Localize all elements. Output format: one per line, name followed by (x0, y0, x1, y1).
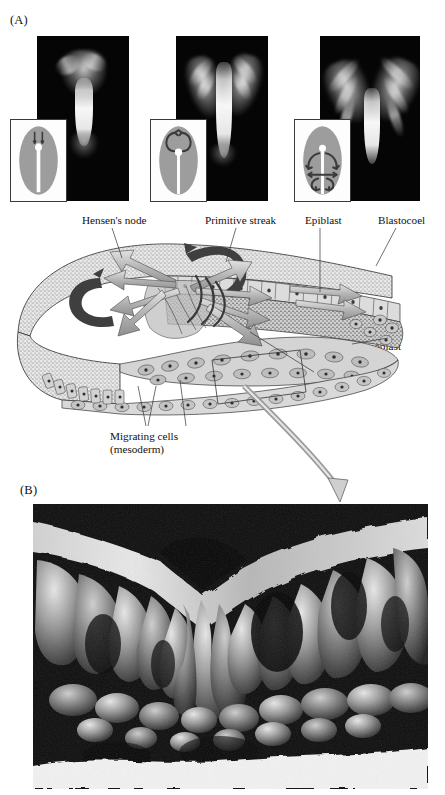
panel-a-letter: (A) (10, 13, 28, 28)
sem-micrograph-svg (33, 504, 428, 789)
leader-blastocoel (376, 228, 396, 266)
figure-root: (A) (0, 0, 445, 795)
hensens-node-shape (175, 148, 182, 155)
embryo-cutaway-diagram (0, 214, 445, 514)
hensens-node-shape (319, 145, 326, 152)
inset-diagram-stage-1 (10, 119, 67, 202)
inset-3-svg (295, 120, 350, 201)
hensens-node-shape (35, 144, 42, 151)
inset-diagram-stage-2 (150, 119, 207, 202)
inset-2-svg (151, 120, 206, 201)
inset-diagram-stage-3 (294, 119, 351, 202)
sem-micrograph-panel (33, 504, 428, 789)
panel-b-letter: (B) (20, 483, 37, 498)
primitive-streak-shape (177, 151, 180, 194)
micrograph-grain-overlay (33, 504, 428, 789)
inset-1-svg (11, 120, 66, 201)
primitive-streak-shape (321, 147, 324, 194)
